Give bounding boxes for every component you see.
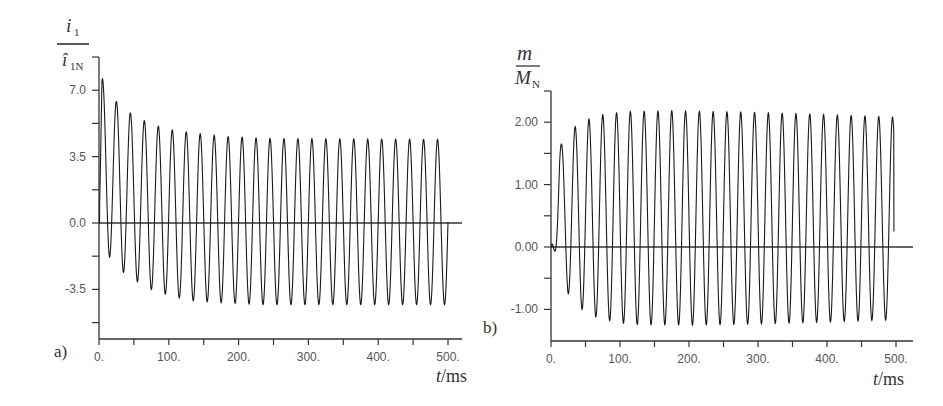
- x-tick-label: 0.: [94, 350, 104, 364]
- y-axis-label-a: i 1 î 1N: [57, 15, 89, 72]
- x-tick-label: 500.: [884, 352, 907, 366]
- y-label-numerator-main-a: i: [66, 15, 71, 36]
- y-axis-label-b: m M N: [514, 41, 540, 90]
- x-tick-label: 200.: [677, 352, 700, 366]
- x-tick-label: 100.: [157, 350, 180, 364]
- y-label-denominator-sub-b: N: [532, 78, 540, 90]
- y-label-denominator-sub-a: 1N: [70, 60, 84, 72]
- y-tick-label: 1.00: [515, 178, 539, 192]
- y-label-numerator-b: m: [517, 41, 532, 65]
- x-tick-label: 500.: [436, 350, 459, 364]
- trace-current-a: [99, 79, 448, 305]
- x-axis-label-b: t/ms: [873, 369, 904, 389]
- y-label-numerator-sub-a: 1: [74, 26, 80, 38]
- y-tick-label: 3.5: [69, 150, 86, 164]
- y-tick-label: -1.00: [511, 302, 539, 316]
- svg-text:t/ms: t/ms: [436, 366, 467, 386]
- x-tick-label: 300.: [297, 350, 320, 364]
- x-tick-label: 400.: [815, 352, 838, 366]
- x-tick-label: 200.: [227, 350, 250, 364]
- x-label-unit-b: /ms: [878, 369, 904, 389]
- y-tick-label: 0.00: [515, 240, 539, 254]
- x-axis-label-a: t/ms: [436, 366, 467, 386]
- trace-torque-b: [551, 111, 894, 325]
- y-tick-label: 0.0: [69, 216, 86, 230]
- y-tick-label: 2.00: [515, 115, 539, 129]
- y-label-denominator-main-a: î: [62, 49, 69, 70]
- x-tick-label: 0.: [546, 352, 556, 366]
- chart-panel-b: m M N 2.001.000.00-1.000.100.200.300.400…: [483, 41, 913, 389]
- svg-text:t/ms: t/ms: [873, 369, 904, 389]
- y-tick-label: -3.5: [65, 282, 86, 296]
- x-label-unit-a: /ms: [441, 366, 467, 386]
- x-tick-label: 400.: [367, 350, 390, 364]
- panel-label-a: a): [54, 342, 67, 361]
- chart-panel-a: i 1 î 1N 7.03.50.0-3.50.100.200.300.400.…: [54, 15, 467, 386]
- y-tick-label: 7.0: [69, 83, 86, 97]
- panel-label-b: b): [483, 318, 497, 337]
- figure: i 1 î 1N 7.03.50.0-3.50.100.200.300.400.…: [0, 0, 943, 406]
- x-tick-label: 300.: [746, 352, 769, 366]
- x-tick-label: 100.: [608, 352, 631, 366]
- y-label-denominator-main-b: M: [514, 67, 532, 88]
